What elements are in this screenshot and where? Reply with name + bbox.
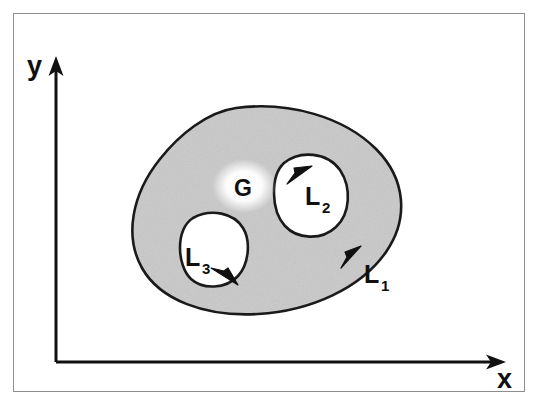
label-L3-base: L [185,243,200,271]
label-L2-base: L [305,182,320,210]
label-L1-base: L [364,260,379,288]
figure-page: y x G L 1 L 2 L 3 [0,0,541,406]
y-axis-label: y [27,51,42,81]
region-label-G: G [234,175,252,201]
x-axis-label: x [497,364,512,394]
region-diagram: y x G L 1 L 2 L 3 [0,0,541,406]
label-L2-subscript: 2 [322,199,330,216]
label-L3-subscript: 3 [202,260,210,277]
label-L1-subscript: 1 [381,277,389,294]
